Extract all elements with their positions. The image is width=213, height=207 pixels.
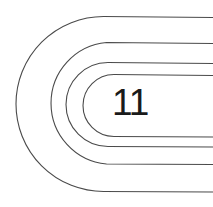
number-label: 11: [112, 83, 148, 123]
concentric-track-graphic: 11: [0, 0, 213, 207]
track-lines: [0, 0, 213, 207]
